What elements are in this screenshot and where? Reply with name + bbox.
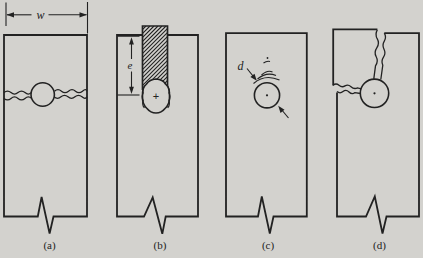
panel-d-label: (d) <box>373 239 386 252</box>
dot-mark <box>267 57 269 59</box>
panel-a-label: (a) <box>43 239 56 252</box>
panel-b-label: (b) <box>154 239 167 252</box>
paper-background <box>0 0 423 258</box>
figure-canvas: w (a) + <box>0 0 423 258</box>
diameter-label: d <box>238 59 245 73</box>
width-label: w <box>36 8 44 22</box>
hole-b-center-mark: + <box>153 90 159 102</box>
panel-c-label: (c) <box>262 239 275 252</box>
slot-depth-label: e <box>128 59 133 71</box>
crack-arrest-diagram: w (a) + <box>0 0 423 258</box>
plate-a-drilled-hole <box>31 83 54 106</box>
hole-d-center-dot <box>373 92 375 94</box>
hole-c-center-dot <box>266 94 268 96</box>
